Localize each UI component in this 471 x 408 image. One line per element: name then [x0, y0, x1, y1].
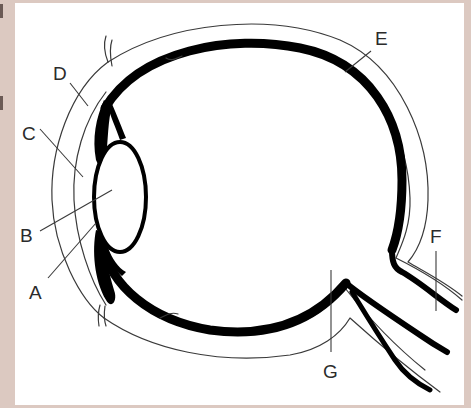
label-c: C	[22, 123, 36, 144]
label-a: A	[29, 282, 42, 303]
label-g: G	[323, 361, 338, 382]
lens	[94, 142, 146, 252]
leader-c	[40, 129, 83, 177]
label-e: E	[375, 28, 388, 49]
choroid-layer	[103, 43, 456, 390]
label-d: D	[53, 63, 67, 84]
label-b: B	[20, 225, 33, 246]
sclera-outline	[104, 24, 462, 392]
eye-diagram: A B C D E F G	[0, 0, 471, 408]
leader-d	[70, 83, 88, 106]
leader-e	[345, 51, 371, 72]
label-f: F	[430, 226, 442, 247]
